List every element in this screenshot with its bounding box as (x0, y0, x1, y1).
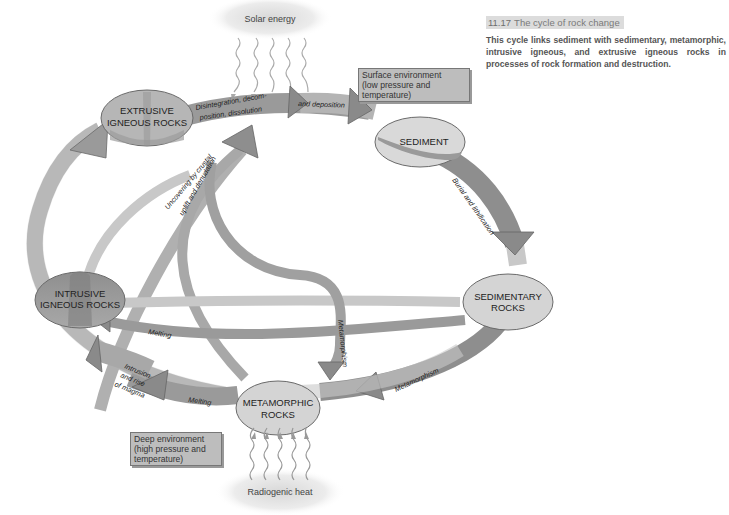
solar-energy-label: Solar energy (244, 14, 296, 24)
deep-environment-box: Deep environment (high pressure and temp… (130, 432, 222, 466)
figure-caption: 11.17The cycle of rock change This cycle… (486, 12, 726, 70)
figure-title: 11.17The cycle of rock change (486, 16, 624, 29)
svg-text:SEDIMENTARY: SEDIMENTARY (474, 291, 542, 302)
label-melting-meta: Melting (188, 395, 212, 407)
svg-text:IGNEOUS ROCKS: IGNEOUS ROCKS (40, 299, 120, 310)
figure-description: This cycle links sediment with sedimenta… (486, 34, 726, 70)
label-deposition: and deposition (298, 99, 345, 110)
svg-text:METAMORPHIC: METAMORPHIC (243, 397, 314, 408)
arrow-burial (492, 232, 534, 255)
node-sedimentary-rocks: SEDIMENTARY ROCKS (463, 274, 553, 330)
metamorphism-intrusive-band (209, 162, 340, 372)
node-metamorphic-rocks: METAMORPHIC ROCKS (236, 381, 320, 435)
node-sediment: SEDIMENT (375, 117, 465, 167)
solar-energy-source: Solar energy (208, 0, 332, 100)
svg-text:INTRUSIVE: INTRUSIVE (55, 288, 106, 299)
radiogenic-heat-label: Radiogenic heat (247, 487, 313, 497)
figure-number: 11.17 (488, 17, 511, 28)
node-intrusive-igneous: INTRUSIVE IGNEOUS ROCKS (35, 272, 125, 329)
svg-text:ROCKS: ROCKS (261, 409, 295, 420)
svg-text:IGNEOUS ROCKS: IGNEOUS ROCKS (107, 117, 187, 128)
arrow-metamorphism-2 (318, 362, 344, 380)
radiogenic-heat-source: Radiogenic heat (215, 428, 345, 515)
svg-text:SEDIMENT: SEDIMENT (399, 136, 448, 147)
surface-environment-box: Surface environment (low pressure and te… (358, 68, 470, 102)
solar-wavy-arrows-icon (234, 38, 308, 92)
svg-text:ROCKS: ROCKS (491, 302, 525, 313)
svg-text:EXTRUSIVE: EXTRUSIVE (120, 105, 174, 116)
node-extrusive-igneous: EXTRUSIVE IGNEOUS ROCKS (101, 90, 193, 146)
